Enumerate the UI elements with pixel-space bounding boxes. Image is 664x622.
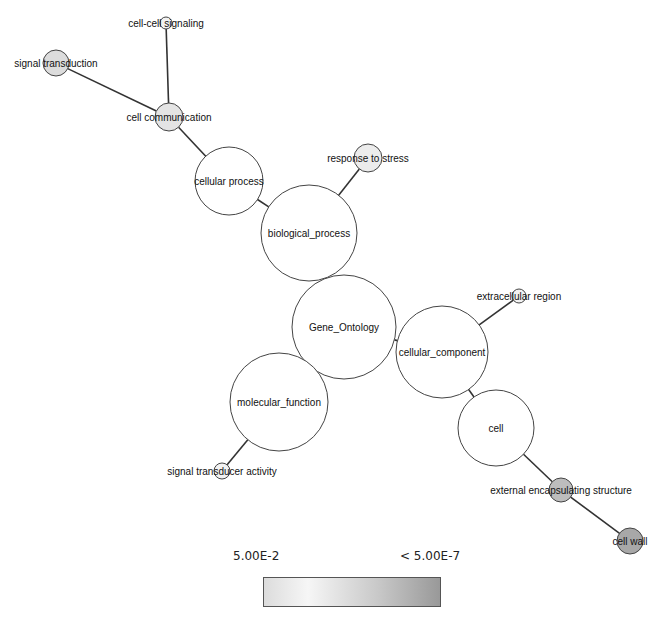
node-label: cell communication	[126, 112, 211, 123]
edge-external_encapsulating_structure-cell_wall	[571, 497, 620, 533]
edge-cellular_component-extracellular_region	[479, 300, 513, 325]
node-signal_transducer_activity[interactable]: signal transducer activity	[167, 463, 277, 479]
edge-cell-external_encapsulating_structure	[523, 454, 552, 481]
node-label: external encapsulating structure	[490, 485, 632, 496]
node-label: signal transduction	[14, 58, 97, 69]
node-external_encapsulating_structure[interactable]: external encapsulating structure	[490, 478, 632, 502]
legend-max-label: < 5.00E-7	[400, 549, 460, 563]
edge-cellular_process-cell_communication	[179, 127, 206, 156]
nodes-layer: Gene_Ontologybiological_processcellular_…	[14, 17, 647, 554]
legend-min-label: 5.00E-2	[233, 549, 279, 563]
node-biological_process[interactable]: biological_process	[261, 185, 357, 281]
node-cellular_component[interactable]: cellular_component	[396, 306, 488, 398]
node-label: cell-cell signaling	[128, 18, 204, 29]
node-label: biological_process	[268, 228, 350, 239]
node-cell_cell_signaling[interactable]: cell-cell signaling	[128, 17, 204, 29]
node-label: molecular_function	[237, 397, 321, 408]
edge-biological_process-response_to_stress	[339, 169, 360, 195]
node-label: response to stress	[327, 153, 409, 164]
node-label: cell wall	[612, 536, 647, 547]
node-label: cellular_component	[399, 347, 486, 358]
edge-cellular_component-cell	[469, 389, 474, 397]
node-cell[interactable]: cell	[458, 390, 534, 466]
edge-cell_communication-cell_cell_signaling	[166, 29, 168, 103]
edge-cell_communication-signal_transduction	[68, 69, 157, 111]
node-extracellular_region[interactable]: extracellular region	[477, 289, 562, 303]
node-response_to_stress[interactable]: response to stress	[327, 144, 409, 172]
edge-biological_process-cellular_process	[258, 200, 269, 207]
node-signal_transduction[interactable]: signal transduction	[14, 50, 97, 76]
node-label: Gene_Ontology	[309, 322, 379, 333]
node-molecular_function[interactable]: molecular_function	[230, 353, 328, 451]
node-label: signal transducer activity	[167, 466, 277, 477]
node-label: cellular process	[194, 176, 263, 187]
node-cellular_process[interactable]: cellular process	[194, 147, 263, 215]
go-graph: Gene_Ontologybiological_processcellular_…	[0, 0, 664, 622]
node-label: extracellular region	[477, 291, 562, 302]
edge-molecular_function-signal_transducer_activity	[227, 440, 248, 465]
node-cell_communication[interactable]: cell communication	[126, 103, 211, 131]
legend-gradient-bar	[263, 577, 441, 607]
node-label: cell	[488, 423, 503, 434]
